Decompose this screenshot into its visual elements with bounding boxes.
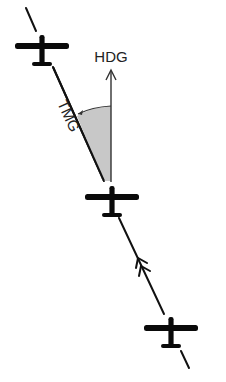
heading-vs-track-diagram: HDG TMG bbox=[0, 0, 226, 382]
aircraft-bottom-icon bbox=[144, 317, 198, 348]
aircraft-middle-icon bbox=[85, 186, 139, 217]
double-chevron-arrow-icon bbox=[136, 258, 150, 276]
track-label: TMG bbox=[54, 97, 83, 134]
heading-label: HDG bbox=[94, 48, 127, 65]
aircraft-top-icon bbox=[15, 35, 69, 66]
drift-angle-wedge bbox=[77, 106, 111, 181]
